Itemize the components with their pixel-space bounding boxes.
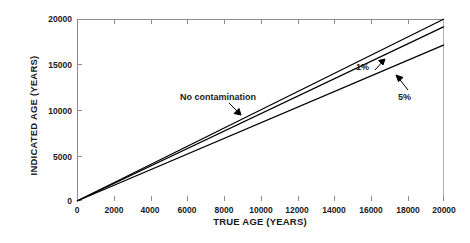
data-series xyxy=(77,19,444,201)
chart-figure: INDICATED AGE (YEARS) 20000 15000 10000 … xyxy=(0,0,470,243)
series-1-percent xyxy=(77,27,444,201)
x-axis-ticks xyxy=(115,19,444,201)
plot-area xyxy=(0,0,470,243)
series-5-percent xyxy=(77,45,444,201)
series-no-contamination xyxy=(77,19,444,201)
annotation-arrows xyxy=(229,59,408,115)
